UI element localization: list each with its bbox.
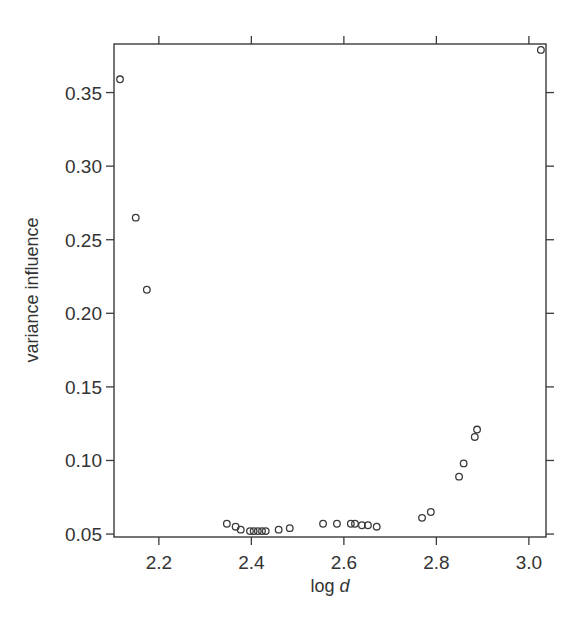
x-axis-title: log d xyxy=(310,576,350,596)
data-point xyxy=(334,520,341,527)
data-point xyxy=(538,47,545,54)
x-tick-label: 3.0 xyxy=(516,552,542,573)
y-tick-label: 0.05 xyxy=(65,524,102,545)
data-point xyxy=(373,523,380,530)
y-tick-label: 0.15 xyxy=(65,377,102,398)
y-tick-label: 0.30 xyxy=(65,156,102,177)
x-tick-label: 2.4 xyxy=(238,552,265,573)
scatter-chart: 2.22.42.62.83.0 0.050.100.150.200.250.30… xyxy=(0,0,580,631)
data-point xyxy=(460,460,467,467)
y-tick-label: 0.20 xyxy=(65,303,102,324)
y-tick-label: 0.25 xyxy=(65,230,102,251)
plot-border xyxy=(114,44,546,537)
data-point xyxy=(132,214,139,221)
data-point xyxy=(456,473,463,480)
data-point xyxy=(117,76,124,83)
data-points xyxy=(117,47,544,535)
data-point xyxy=(224,520,231,527)
data-point xyxy=(471,434,478,441)
x-axis-title-prefix: log xyxy=(310,576,339,596)
data-point xyxy=(275,526,282,533)
data-point xyxy=(474,426,481,433)
y-tick-label: 0.10 xyxy=(65,450,102,471)
plot-frame xyxy=(114,44,546,537)
data-point xyxy=(237,526,244,533)
x-tick-label: 2.6 xyxy=(331,552,357,573)
data-point xyxy=(352,520,359,527)
data-point xyxy=(286,525,293,532)
y-tick-label: 0.35 xyxy=(65,83,102,104)
x-axis-title-variable: d xyxy=(340,576,351,596)
y-axis-title: variance influence xyxy=(22,217,42,362)
data-point xyxy=(320,520,327,527)
x-axis: 2.22.42.62.83.0 xyxy=(146,36,542,573)
data-point xyxy=(419,515,426,522)
y-axis: 0.050.100.150.200.250.300.35 xyxy=(65,83,554,545)
data-point xyxy=(428,509,435,516)
data-point xyxy=(144,286,151,293)
x-tick-label: 2.8 xyxy=(423,552,449,573)
x-tick-label: 2.2 xyxy=(146,552,172,573)
